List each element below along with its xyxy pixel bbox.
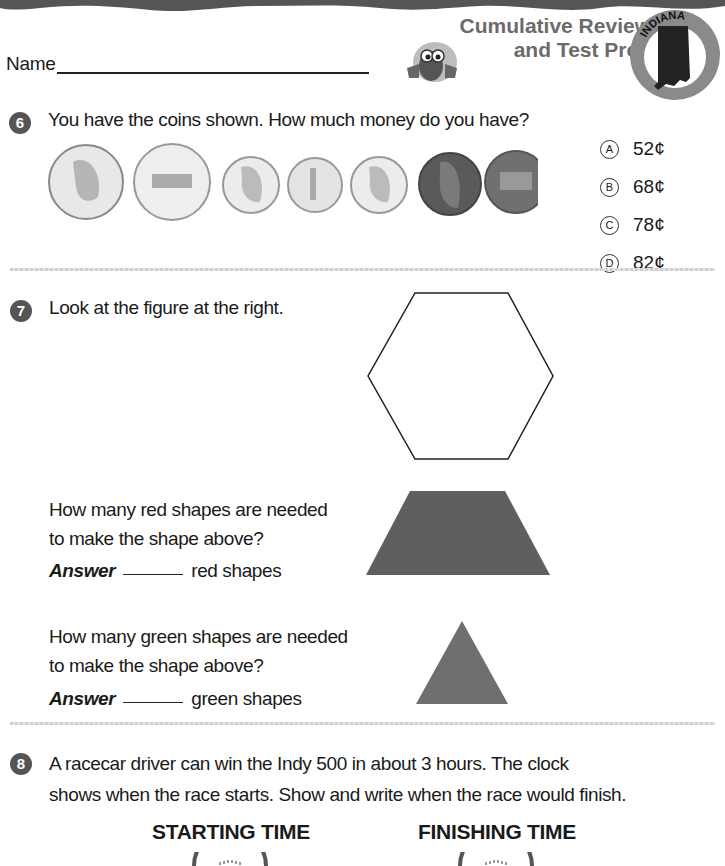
dime-coin-icon [288, 158, 342, 212]
section-divider [10, 268, 715, 271]
name-input-line[interactable] [57, 72, 369, 74]
starting-time-label: STARTING TIME [152, 820, 310, 844]
green-triangle-shape [414, 620, 510, 705]
name-label: Name [6, 53, 55, 75]
answer-red-row: Answerred shapes [49, 560, 281, 582]
option-d[interactable]: D82¢ [600, 252, 665, 290]
starting-clock-icon [190, 852, 270, 866]
question-number-7: 7 [10, 300, 32, 322]
hexagon-figure [360, 290, 560, 462]
question-7-part-1: How many red shapes are needed to make t… [49, 495, 327, 553]
question-number-6: 6 [9, 112, 31, 134]
dime-coin-icon [351, 157, 407, 213]
option-c[interactable]: C78¢ [600, 214, 665, 252]
indiana-quarter-coin-icon [134, 144, 210, 220]
dime-coin-icon [223, 157, 279, 213]
title-line-2: and Test Prep [433, 38, 651, 62]
question-8-prompt: A racecar driver can win the Indy 500 in… [49, 748, 626, 810]
title-line-1: Cumulative Review [460, 14, 651, 37]
option-a[interactable]: A52¢ [600, 138, 665, 176]
finishing-time-label: FINISHING TIME [418, 820, 576, 844]
penny-coin-icon [485, 151, 538, 213]
answer-red-blank[interactable] [123, 574, 183, 575]
penny-coin-icon [419, 153, 481, 215]
page-title: Cumulative Review and Test Prep [433, 14, 651, 62]
finishing-clock-icon[interactable] [456, 852, 536, 866]
question-7-part-2: How many green shapes are needed to make… [49, 622, 348, 680]
option-b[interactable]: B68¢ [600, 176, 665, 214]
question-6-prompt: You have the coins shown. How much money… [48, 109, 529, 131]
coins-illustration [48, 142, 538, 222]
quarter-coin-icon [49, 145, 123, 219]
answer-green-row: Answergreen shapes [49, 688, 302, 710]
section-divider [10, 722, 715, 725]
answer-green-blank[interactable] [123, 702, 183, 703]
question-7-prompt: Look at the figure at the right. [49, 297, 283, 319]
indiana-state-badge: INDIANA [628, 8, 722, 102]
owl-mascot-icon [405, 38, 459, 84]
question-number-8: 8 [10, 753, 32, 775]
red-trapezoid-shape [365, 490, 551, 576]
